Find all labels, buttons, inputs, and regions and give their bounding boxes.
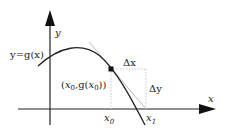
curve-label: y=g(x) <box>9 49 44 60</box>
delta-y-label: Δy <box>149 83 162 94</box>
tangent-point <box>109 67 114 72</box>
x-axis-arrow-icon <box>199 104 216 114</box>
x-axis-label: x <box>208 93 214 104</box>
x1-label: x1 <box>146 112 156 126</box>
tangent-diagram: y x y=g(x) (x0,g(x0)) Δx Δy x0 x1 <box>0 0 225 138</box>
delta-x-label: Δx <box>123 57 136 68</box>
x0-label: x0 <box>104 112 115 126</box>
point-label: (x0,g(x0)) <box>61 79 107 92</box>
y-axis-arrow-icon <box>45 10 55 26</box>
y-axis-label: y <box>54 27 61 38</box>
